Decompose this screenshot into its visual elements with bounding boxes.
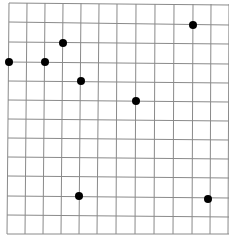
grid-dots bbox=[5, 21, 212, 203]
grid-line-horizontal bbox=[7, 215, 229, 217]
grid-line-vertical bbox=[61, 3, 63, 234]
grid-line-horizontal bbox=[8, 100, 229, 102]
grid-line-horizontal bbox=[9, 3, 229, 5]
grid-line-vertical bbox=[154, 4, 155, 234]
grid-line-horizontal bbox=[9, 42, 229, 44]
grid-dot bbox=[189, 21, 197, 29]
grid-dot bbox=[41, 58, 49, 66]
dot-grid-diagram bbox=[0, 0, 229, 236]
grid-lines bbox=[7, 3, 229, 234]
grid-line-horizontal bbox=[8, 157, 229, 159]
grid-line-horizontal bbox=[7, 196, 229, 198]
grid-line-vertical bbox=[228, 4, 229, 234]
grid-dot bbox=[59, 39, 67, 47]
grid-line-horizontal bbox=[8, 138, 229, 140]
grid-line-vertical bbox=[25, 3, 27, 234]
grid-line-vertical bbox=[116, 4, 117, 234]
grid-line-horizontal bbox=[8, 176, 229, 178]
grid-line-vertical bbox=[135, 4, 136, 234]
grid-line-horizontal bbox=[8, 81, 229, 83]
grid-line-vertical bbox=[97, 4, 99, 234]
grid-line-vertical bbox=[43, 3, 45, 234]
grid-line-vertical bbox=[192, 4, 193, 234]
grid-dot bbox=[5, 58, 13, 66]
grid-dot bbox=[77, 77, 85, 85]
grid-dot bbox=[204, 195, 212, 203]
grid-line-vertical bbox=[7, 3, 9, 234]
grid-dot bbox=[75, 192, 83, 200]
grid-line-vertical bbox=[173, 4, 174, 234]
grid-line-horizontal bbox=[8, 119, 229, 121]
grid-dot bbox=[132, 97, 140, 105]
